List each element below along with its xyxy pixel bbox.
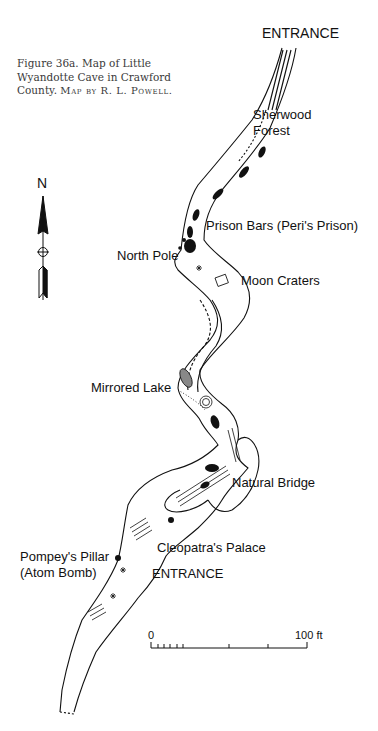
label-entrance-top: ENTRANCE <box>262 26 339 42</box>
label-prison-bars: Prison Bars (Peri's Prison) <box>206 218 358 234</box>
scale-start-label: 0 <box>148 629 154 641</box>
cave-map-drawing <box>0 0 378 731</box>
label-moon-craters: Moon Craters <box>241 273 320 289</box>
label-pompey-line-2: (Atom Bomb) <box>20 565 109 581</box>
label-sherwood-forest: Sherwood Forest <box>253 107 312 138</box>
label-natural-bridge: Natural Bridge <box>232 475 315 491</box>
label-north-pole: North Pole <box>117 248 178 264</box>
cave-map-figure: Figure 36a. Map of Little Wyandotte Cave… <box>0 0 378 731</box>
label-mirrored-lake: Mirrored Lake <box>91 380 171 396</box>
label-sherwood-line-2: Forest <box>253 123 312 139</box>
label-pompey-line-1: Pompey's Pillar <box>20 549 109 565</box>
scale-bar <box>151 642 307 648</box>
label-sherwood-line-1: Sherwood <box>253 107 312 123</box>
label-entrance-bottom: ENTRANCE <box>152 566 224 582</box>
label-cleopatras-palace: Cleopatra's Palace <box>157 540 266 556</box>
north-arrow-icon <box>37 196 49 300</box>
north-label: N <box>37 176 47 192</box>
scale-end-label: 100 ft <box>295 629 323 641</box>
label-pompeys-pillar: Pompey's Pillar (Atom Bomb) <box>20 549 109 580</box>
